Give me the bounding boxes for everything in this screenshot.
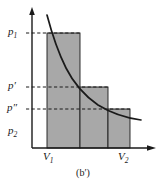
x-label-v2-sub: 2	[125, 156, 129, 165]
y-label-p2-sub: 2	[14, 130, 18, 139]
x-label-v1-text: V	[43, 150, 50, 162]
y-label-p-double-prime: p″	[7, 102, 17, 113]
y-label-p1: p1	[8, 26, 17, 40]
y-label-p1-sub: 1	[14, 31, 18, 40]
bar-1	[47, 33, 80, 148]
pv-diagram-figure: p1 p′ p″ p2 V1 V2 (b′)	[0, 0, 166, 187]
figure-caption: (b′)	[0, 167, 166, 178]
plot-canvas	[0, 0, 166, 187]
x-label-v2: V2	[118, 151, 128, 165]
y-label-p-prime-mark: ′	[14, 79, 16, 91]
x-label-v2-text: V	[118, 150, 125, 162]
y-label-p-double-prime-mark: ″	[13, 101, 17, 113]
rectangle-steps-group	[47, 33, 130, 148]
pressure-axis	[29, 7, 35, 148]
y-label-p-prime: p′	[8, 80, 16, 91]
bar-2	[80, 87, 108, 148]
x-label-v1: V1	[43, 151, 53, 165]
x-label-v1-sub: 1	[50, 156, 54, 165]
y-label-p2: p2	[8, 125, 17, 139]
